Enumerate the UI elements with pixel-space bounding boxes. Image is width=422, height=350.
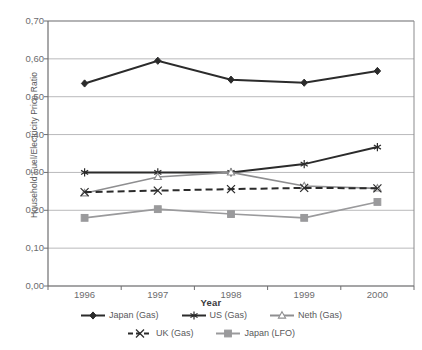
data-point-marker (81, 80, 87, 87)
legend-marker-cross-icon (127, 328, 153, 339)
legend-marker-triangle-open-icon (269, 310, 295, 321)
data-point-marker (301, 214, 308, 221)
legend-item-label: Japan (Gas) (109, 311, 159, 320)
data-point-marker (155, 57, 161, 64)
legend-item[interactable]: US (Gas) (181, 310, 248, 321)
legend-marker-diamond-filled-icon (80, 310, 106, 321)
legend-item[interactable]: Japan (Gas) (80, 310, 159, 321)
data-point-marker (228, 211, 235, 218)
legend-marker-square-filled-icon (215, 328, 241, 339)
data-point-marker (225, 330, 232, 337)
legend-item-label: Neth (Gas) (298, 311, 342, 320)
data-point-marker (154, 206, 161, 213)
chart-legend-row-1: Japan (Gas)US (Gas)Neth (Gas) (0, 310, 422, 321)
data-point-marker (374, 199, 381, 206)
data-point-marker (301, 79, 307, 86)
series-uk-gas (81, 184, 382, 196)
data-point-marker (228, 76, 234, 83)
legend-item[interactable]: Japan (LFO) (215, 328, 295, 339)
legend-item-label: UK (Gas) (156, 329, 194, 338)
data-point-marker (90, 312, 96, 319)
series-japan-gas (81, 57, 380, 87)
legend-item-label: Japan (LFO) (244, 329, 295, 338)
x-axis-title: Year (0, 297, 422, 308)
plot-area (0, 0, 422, 300)
legend-item[interactable]: UK (Gas) (127, 328, 194, 339)
chart-legend-row-2: UK (Gas)Japan (LFO) (0, 328, 422, 339)
legend-item-label: US (Gas) (210, 311, 248, 320)
data-point-marker (81, 214, 88, 221)
legend-item[interactable]: Neth (Gas) (269, 310, 342, 321)
data-point-marker (374, 67, 380, 74)
chart-container: Household Fuel/Electricity Price Ratio 0… (0, 0, 422, 350)
legend-marker-asterisk-icon (181, 310, 207, 321)
